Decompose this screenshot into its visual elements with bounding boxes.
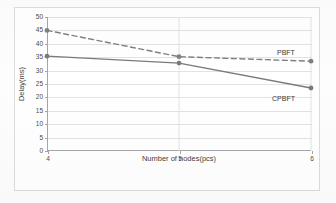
chart-figure: 05101520253035404550 456 PBFT CPBFT Numb… (0, 0, 336, 203)
x-tick-mark (312, 151, 313, 154)
y-tick-label: 15 (36, 108, 43, 115)
y-tick-label: 5 (39, 134, 43, 141)
data-point-pbft (45, 28, 50, 33)
y-tick-label: 45 (36, 27, 43, 34)
y-tick-label: 25 (36, 81, 43, 88)
series-layer (47, 17, 311, 151)
y-tick-label: 30 (36, 67, 43, 74)
y-axis-title: Delay(ms) (18, 67, 26, 101)
y-tick-label: 0 (39, 148, 43, 155)
series-label-cpbft: CPBFT (272, 95, 295, 102)
data-point-cpbft (309, 86, 314, 91)
data-point-pbft (177, 54, 182, 59)
series-label-pbft: PBFT (277, 49, 295, 56)
y-tick-label: 20 (36, 94, 43, 101)
y-tick-label: 35 (36, 54, 43, 61)
x-tick-mark (48, 151, 49, 154)
y-tick-label: 10 (36, 121, 43, 128)
data-point-pbft (309, 59, 314, 64)
data-point-cpbft (177, 61, 182, 66)
y-tick-label: 50 (36, 14, 43, 21)
x-axis-title: Number of nodes(pcs) (47, 155, 311, 163)
data-point-cpbft (45, 54, 50, 59)
y-tick-label: 40 (36, 41, 43, 48)
